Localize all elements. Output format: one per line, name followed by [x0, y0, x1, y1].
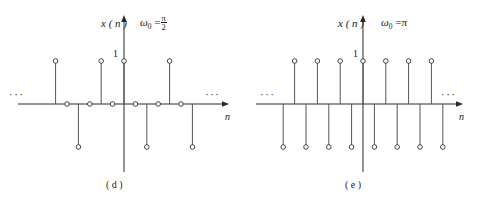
x-axis-arrow — [222, 101, 229, 107]
stem-marker — [53, 59, 58, 64]
panel-e-omega-label: ω0 =π — [381, 17, 407, 31]
panel-d-plot — [0, 0, 483, 204]
panel-e-x-axis-label: n — [459, 112, 464, 122]
x-axis-arrow — [456, 101, 463, 107]
stem-marker — [179, 102, 184, 107]
panel-e-caption: ( e ) — [345, 180, 361, 190]
stem-marker — [190, 145, 195, 150]
signal-plots-figure: x ( n ) ω0 =π2 1 ··· ··· n ( d ) x ( n )… — [0, 0, 483, 204]
panel-d-right-ellipsis: ··· — [205, 89, 221, 100]
stem-marker — [384, 59, 389, 64]
stem-marker — [99, 59, 104, 64]
stem-marker — [145, 145, 150, 150]
panel-d-amplitude-label: 1 — [113, 49, 118, 59]
stem-marker — [281, 145, 286, 150]
stem-marker — [338, 59, 343, 64]
panel-e-y-axis-label: x ( n ) — [338, 18, 364, 29]
panel-e-left-ellipsis: ··· — [260, 89, 276, 100]
stem-marker — [167, 59, 172, 64]
panel-e-amplitude-label: 1 — [353, 49, 358, 59]
panel-d-left-ellipsis: ··· — [9, 89, 25, 100]
stem-marker — [372, 145, 377, 150]
panel-d-caption: ( d ) — [106, 180, 123, 190]
stem-marker — [110, 102, 115, 107]
stem-marker — [122, 59, 127, 64]
panel-d-y-axis-label: x ( n ) — [101, 18, 127, 29]
stem-marker — [441, 145, 446, 150]
panel-d-omega-label: ω0 =π2 — [140, 14, 167, 33]
stem-marker — [327, 145, 332, 150]
stem-marker — [349, 145, 354, 150]
stem-marker — [292, 59, 297, 64]
stem-marker — [304, 145, 309, 150]
stem-marker — [76, 145, 81, 150]
panel-e-right-ellipsis: ··· — [441, 89, 457, 100]
stem-marker — [65, 102, 70, 107]
stem-marker — [418, 145, 423, 150]
stem-marker — [361, 59, 366, 64]
stem-marker — [88, 102, 93, 107]
stem-marker — [395, 145, 400, 150]
panel-d-x-axis-label: n — [225, 112, 230, 122]
stem-marker — [156, 102, 161, 107]
stem-marker — [429, 59, 434, 64]
stem-marker — [133, 102, 138, 107]
stem-marker — [406, 59, 411, 64]
stem-marker — [315, 59, 320, 64]
